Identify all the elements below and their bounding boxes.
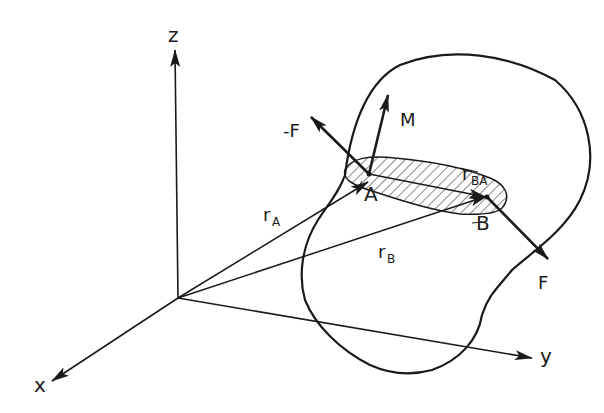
point-a-label: A xyxy=(364,182,378,206)
svg-text:A: A xyxy=(272,215,281,229)
svg-text:r: r xyxy=(378,241,386,262)
r-b-label: r B xyxy=(378,241,395,266)
r-b-vector xyxy=(178,196,487,298)
svg-text:BA: BA xyxy=(471,174,488,188)
force-label: F xyxy=(538,272,548,293)
y-axis-label: y xyxy=(540,344,552,368)
x-axis-label: x xyxy=(34,373,46,397)
point-a-dot xyxy=(367,172,372,177)
r-a-vector xyxy=(178,182,368,298)
point-b-dot xyxy=(485,195,490,200)
z-axis-label: z xyxy=(168,23,179,47)
neg-force-label: -F xyxy=(283,120,300,141)
coordinate-axes xyxy=(52,50,532,381)
rigid-body-couple-diagram: z x y -F M F r A r B r BA A B xyxy=(0,0,604,413)
x-axis xyxy=(52,298,178,381)
svg-text:B: B xyxy=(387,252,395,266)
r-a-label: r A xyxy=(263,204,281,229)
point-b-label: B xyxy=(476,211,490,235)
moment-label: M xyxy=(400,109,416,130)
z-axis xyxy=(175,50,178,298)
svg-text:r: r xyxy=(263,204,271,225)
neg-force-vector xyxy=(311,117,369,174)
svg-text:r: r xyxy=(462,163,470,184)
force-vector xyxy=(487,197,548,259)
